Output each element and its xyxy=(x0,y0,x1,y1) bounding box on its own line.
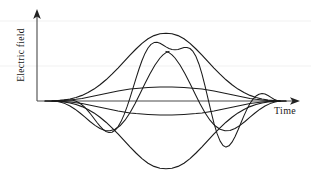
y-axis-label: Electric field xyxy=(14,14,28,96)
y-axis-label-text: Electric field xyxy=(16,28,26,82)
carrier-wave-secondary-mirror-curve xyxy=(166,51,280,130)
carrier-wave-secondary-curve xyxy=(55,51,169,130)
axes-group xyxy=(33,9,300,105)
plot-area xyxy=(0,0,311,170)
x-axis-label-text: Time xyxy=(274,105,296,116)
outer-envelope-lower-curve xyxy=(45,101,286,169)
carrier-wave-curve xyxy=(55,42,280,147)
gridlines-group xyxy=(0,21,311,66)
x-axis-label: Time xyxy=(274,105,296,116)
outer-envelope-upper-curve xyxy=(45,33,286,101)
electric-field-time-figure: Electric field Time xyxy=(0,0,311,170)
